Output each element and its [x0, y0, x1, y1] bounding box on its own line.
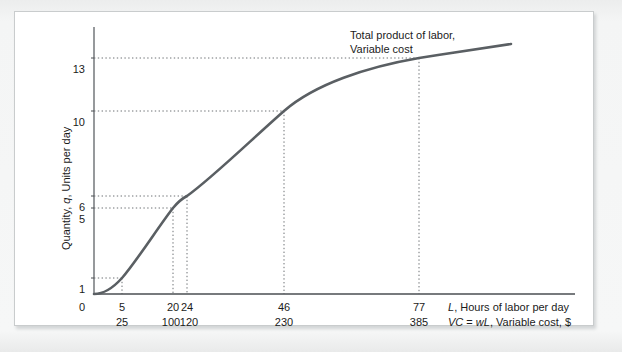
- x-axis-title-variable-cost: VC = wL, Variable cost, $: [448, 317, 571, 328]
- x-tick-label-L-24: 24: [167, 302, 207, 313]
- x-axis-title-vc-w: w: [476, 316, 484, 328]
- y-tick-label-0: 0: [63, 302, 85, 313]
- x-tick-label-VC-25: 25: [102, 317, 142, 328]
- x-tick-label-L-5: 5: [102, 302, 142, 313]
- x-tick-label-VC-120: 120: [169, 317, 209, 328]
- x-axis-title-vc-rest: , Variable cost, $: [490, 316, 571, 328]
- total-product-curve: [94, 44, 511, 294]
- x-axis-title-vc-equals: =: [463, 316, 476, 328]
- chart-plot-area: [15, 12, 593, 325]
- curve-annotation-line2: Variable cost: [350, 43, 413, 56]
- curve-annotation-line1: Total product of labor,: [350, 29, 455, 42]
- y-tick-label-10: 10: [63, 117, 85, 128]
- y-axis-title-part2: , Units per day: [60, 127, 72, 198]
- y-tick-label-5: 5: [63, 214, 85, 225]
- x-tick-label-L-77: 77: [399, 302, 439, 313]
- y-tick-label-1: 1: [63, 284, 85, 295]
- y-axis-title: Quantity, q, Units per day: [61, 127, 72, 250]
- x-axis-title-labor-rest: , Hours of labor per day: [454, 301, 569, 313]
- x-axis-title-vc-symbol: VC: [448, 316, 463, 328]
- figure-root: Quantity, q, Units per day 13 10 6 5 1 0…: [0, 0, 622, 352]
- y-tick-label-13: 13: [63, 64, 85, 75]
- x-tick-label-VC-385: 385: [399, 317, 439, 328]
- chart-panel: Quantity, q, Units per day 13 10 6 5 1 0…: [14, 11, 594, 326]
- y-tick-label-6: 6: [63, 202, 85, 213]
- x-axis-title-labor: L, Hours of labor per day: [448, 302, 569, 313]
- x-tick-label-VC-230: 230: [264, 317, 304, 328]
- x-tick-label-L-46: 46: [264, 302, 304, 313]
